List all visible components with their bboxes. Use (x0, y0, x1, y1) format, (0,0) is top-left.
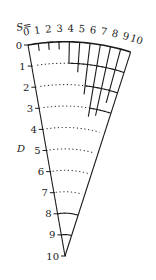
s-tick-7 (88, 45, 100, 117)
d-label-2: 2 (23, 82, 29, 93)
dotted-arc-d-6 (53, 170, 88, 173)
s-tick-5 (78, 42, 80, 72)
dotted-arc-d-7 (56, 192, 83, 194)
d-label-5: 5 (34, 145, 40, 156)
s-label-8: 8 (111, 28, 120, 40)
s-tick-1 (38, 43, 39, 50)
fan-diagram: S= D 012345678910012345678910 (0, 0, 156, 280)
right-edge (65, 52, 131, 256)
d-axis-label: D (16, 143, 25, 154)
d-label-4: 4 (30, 124, 36, 135)
d-label-7: 7 (42, 187, 48, 198)
s-label-1: 1 (33, 24, 41, 36)
arc-segment-d-3 (90, 108, 111, 113)
dotted-arc-d-4 (46, 127, 99, 132)
s-label-10: 10 (129, 32, 144, 46)
s-label-5: 5 (78, 23, 85, 34)
arc-d-8 (58, 213, 79, 215)
s-label-3: 3 (56, 23, 63, 34)
arc-d-9 (61, 235, 71, 236)
fan-labels: S= D 012345678910012345678910 (15, 19, 144, 261)
s-label-7: 7 (100, 25, 108, 37)
d-label-8: 8 (45, 208, 51, 219)
d-label-6: 6 (38, 166, 44, 177)
s-label-4: 4 (67, 23, 74, 34)
dotted-arc-d-1 (37, 63, 117, 70)
d-label-3: 3 (27, 103, 33, 114)
s-label-2: 2 (45, 23, 52, 34)
d-label-1: 1 (19, 61, 25, 72)
d-label-9: 9 (49, 229, 55, 240)
s-label-6: 6 (89, 24, 97, 36)
dotted-arc-d-5 (50, 149, 94, 153)
d-label-0: 0 (16, 40, 22, 51)
d-label-10: 10 (46, 251, 59, 262)
s-tick-2 (49, 42, 50, 49)
